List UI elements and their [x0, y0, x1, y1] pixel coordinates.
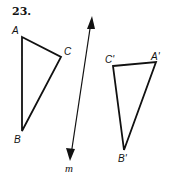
vertex-label-a: A [11, 25, 19, 36]
vertex-label-c: C [64, 46, 72, 57]
reflection-diagram: 23. m A C B C' A' B' [0, 0, 176, 175]
vertex-label-a-prime: A' [150, 51, 161, 62]
line-label-m: m [65, 162, 73, 174]
problem-number: 23. [12, 5, 31, 18]
vertex-label-b: B [14, 134, 21, 145]
arrowhead-up-icon [87, 16, 95, 29]
triangle-a-prime-b-prime-c-prime: C' A' B' [105, 51, 161, 164]
triangle-abc: A C B [11, 25, 72, 145]
arrowhead-down-icon [66, 148, 75, 161]
vertex-label-c-prime: C' [105, 54, 115, 65]
vertex-label-b-prime: B' [118, 153, 128, 164]
reflection-line-m: m [65, 16, 95, 174]
